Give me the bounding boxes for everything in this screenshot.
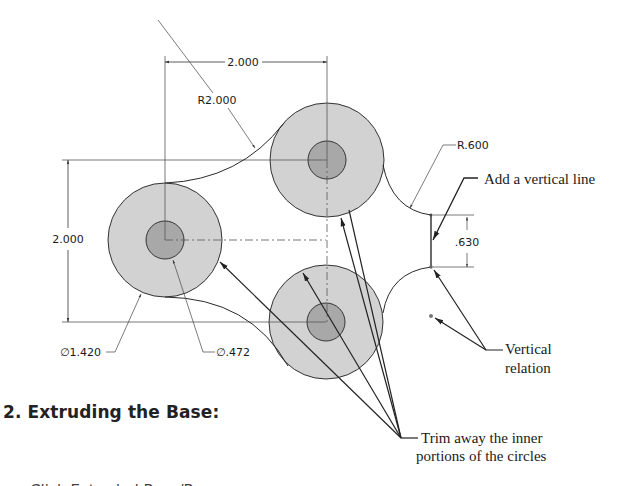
callout-trim-text-1: Trim away the inner xyxy=(421,430,543,446)
dimension-r2000: R2.000 xyxy=(158,20,255,148)
dim-dia-1420-label: ∅1.420 xyxy=(60,346,101,359)
callout-trim: Trim away the inner portions of the circ… xyxy=(220,210,547,464)
vertical-line-bottom-point xyxy=(429,265,433,269)
dim-r2000-label: R2.000 xyxy=(197,94,236,107)
r600-arc-bottom xyxy=(383,267,431,313)
callout-vertical-relation: Vertical relation xyxy=(434,270,552,376)
callout-vertical-relation-text-2: relation xyxy=(505,360,551,376)
dimension-horizontal: 2.000 xyxy=(165,56,327,69)
r600-center-point xyxy=(429,314,433,318)
callout-add-vertical-line-text: Add a vertical line xyxy=(484,171,596,187)
dimension-630: .630 xyxy=(433,215,479,267)
dimension-vertical: 2.000 xyxy=(52,160,84,322)
dim-vertical-label: 2.000 xyxy=(52,233,84,246)
dim-dia-472-label: ∅.472 xyxy=(216,346,250,359)
r2000-arc-top xyxy=(165,123,284,183)
dim-horizontal-label: 2.000 xyxy=(227,56,259,69)
vertical-line-top-point xyxy=(429,213,432,216)
inner-circles xyxy=(146,141,346,341)
callout-vertical-relation-text-1: Vertical xyxy=(505,341,552,357)
dim-630-label: .630 xyxy=(455,236,480,249)
section-next-line: Click Extruded Boss/Base xyxy=(30,480,220,486)
r600-arc-top xyxy=(383,165,431,215)
dimension-dia-1420: ∅1.420 xyxy=(60,294,141,359)
callout-add-vertical-line: Add a vertical line xyxy=(433,171,596,240)
dimension-r600: R.600 xyxy=(410,139,489,208)
dim-r600-label: R.600 xyxy=(457,139,489,152)
callout-trim-text-2: portions of the circles xyxy=(416,448,547,464)
section-heading: 2. Extruding the Base: xyxy=(3,402,219,422)
